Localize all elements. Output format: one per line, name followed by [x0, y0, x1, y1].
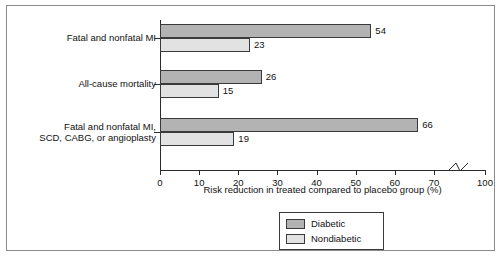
- bar-value-label: 15: [223, 84, 234, 98]
- category-label-line: Fatal and nonfatal MI: [16, 32, 156, 44]
- bar-diabetic: [160, 24, 371, 38]
- bar-value-label: 19: [238, 132, 249, 146]
- legend-label: Diabetic: [311, 218, 345, 230]
- bar-value-label: 66: [422, 118, 433, 132]
- bar-nondiabetic: [160, 132, 234, 146]
- category-label: Fatal and nonfatal MI: [16, 32, 156, 44]
- plot-area: 542326156619 010203040506070100: [160, 20, 485, 170]
- category-label: All-cause mortality: [16, 78, 156, 90]
- bar-value-label: 23: [254, 38, 265, 52]
- category-axis-labels: Fatal and nonfatal MIAll-cause mortality…: [15, 20, 156, 170]
- category-tick: [154, 132, 160, 133]
- x-axis-title: Risk reduction in treated compared to pl…: [160, 184, 485, 195]
- category-label: Fatal and nonfatal MI,SCD, CABG, or angi…: [16, 121, 156, 144]
- legend-swatch-nondiabetic: [286, 234, 305, 244]
- bar-nondiabetic: [160, 84, 219, 98]
- legend-swatch-diabetic: [286, 219, 305, 229]
- category-label-line: All-cause mortality: [16, 78, 156, 90]
- bar-nondiabetic: [160, 38, 250, 52]
- category-label-line: SCD, CABG, or angioplasty: [16, 132, 156, 144]
- bar-diabetic: [160, 118, 418, 132]
- figure-frame: Fatal and nonfatal MIAll-cause mortality…: [6, 5, 495, 251]
- legend-label: Nondiabetic: [311, 233, 361, 245]
- axis-break-icon: [160, 156, 485, 172]
- category-tick: [154, 38, 160, 39]
- bar-value-label: 26: [266, 70, 277, 84]
- bar-value-label: 54: [375, 24, 386, 38]
- figure-container: Fatal and nonfatal MIAll-cause mortality…: [0, 0, 503, 259]
- bar-diabetic: [160, 70, 262, 84]
- x-tick: [485, 170, 486, 175]
- category-tick: [154, 84, 160, 85]
- category-label-line: Fatal and nonfatal MI,: [16, 121, 156, 133]
- legend: DiabeticNondiabetic: [279, 212, 384, 250]
